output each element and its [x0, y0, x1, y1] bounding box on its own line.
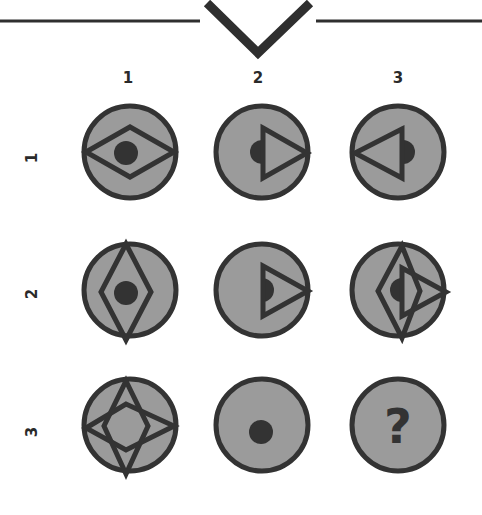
cell-r1-c3: [352, 106, 444, 198]
cell-r2-c2: [216, 244, 308, 336]
row-label-2: 2: [22, 284, 42, 304]
cell-r2-c3: [352, 244, 446, 338]
puzzle-stage: 1 2 3 1 2 3 ?: [0, 0, 482, 515]
row-label-1: 1: [22, 148, 42, 168]
question-mark-icon: ?: [378, 396, 418, 456]
dot-icon: [114, 141, 138, 165]
row-label-3: 3: [22, 422, 42, 442]
header-v-notch: [0, 0, 482, 53]
cell-r1-c2: [216, 106, 308, 198]
cell-r3-c2: [216, 379, 308, 471]
cell-r1-c1: [84, 106, 176, 198]
column-label-3: 3: [388, 68, 408, 88]
column-label-2: 2: [248, 68, 268, 88]
column-label-1: 1: [118, 68, 138, 88]
cell-r2-c1: [84, 244, 176, 340]
dot-icon: [249, 420, 273, 444]
cell-r3-c1: [84, 379, 176, 474]
dot-icon: [114, 281, 138, 305]
